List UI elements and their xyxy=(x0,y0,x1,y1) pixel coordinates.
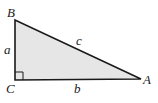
vertex-label-a: A xyxy=(142,72,151,87)
side-label-c: c xyxy=(76,33,82,48)
right-triangle-diagram: B C A a b c xyxy=(0,0,158,103)
side-label-b: b xyxy=(74,81,81,96)
vertex-label-c: C xyxy=(6,81,15,96)
vertex-label-b: B xyxy=(7,5,15,20)
side-label-a: a xyxy=(4,42,11,57)
triangle xyxy=(15,20,141,80)
